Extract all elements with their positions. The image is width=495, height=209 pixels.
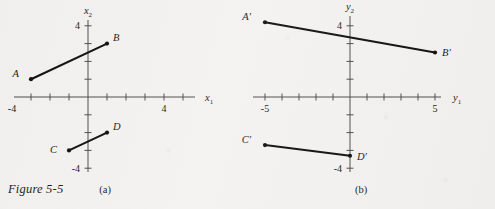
x-tick-label: 5 xyxy=(433,103,438,114)
point-label-B': B′ xyxy=(442,47,451,58)
panel-b-tag: (b) xyxy=(355,184,367,195)
y-tick-label: 4 xyxy=(75,20,80,31)
y-axis-label: x2 xyxy=(83,5,93,19)
x-axis-label: x1 xyxy=(204,92,214,106)
panel-a-tag: (a) xyxy=(99,184,111,195)
point-marker-C xyxy=(67,148,71,152)
point-marker-A' xyxy=(263,20,267,24)
point-label-C: C xyxy=(50,144,58,155)
figure-caption-row: Figure 5-5 (a) xyxy=(8,182,111,197)
x-tick-label: 4 xyxy=(162,103,167,114)
x-axis-label: y1 xyxy=(452,92,462,106)
point-label-A': A′ xyxy=(241,11,251,22)
point-marker-A xyxy=(29,77,33,81)
point-marker-B xyxy=(105,42,109,46)
figure-caption: Figure 5-5 xyxy=(8,182,63,197)
point-label-D: D xyxy=(112,121,121,132)
point-marker-D' xyxy=(348,154,352,158)
figure-5-5: -444-4x1x2ABCD -554-4y1y2A′B′C′D′ Figure… xyxy=(0,0,495,209)
x-tick-label: -5 xyxy=(261,103,269,114)
y-tick-label: -4 xyxy=(72,163,80,174)
point-label-C': C′ xyxy=(242,134,252,145)
point-label-D': D′ xyxy=(356,151,368,162)
point-label-B: B xyxy=(113,32,120,43)
segment-C'D' xyxy=(265,145,350,156)
y-axis-label: y2 xyxy=(345,1,355,15)
point-marker-D xyxy=(105,131,109,135)
plot-panel-b: -554-4y1y2A′B′C′D′ xyxy=(245,0,495,180)
point-marker-B' xyxy=(433,50,437,54)
plot-panel-a: -444-4x1x2ABCD xyxy=(0,0,245,180)
point-label-A: A xyxy=(12,68,20,79)
x-tick-label: -4 xyxy=(8,103,16,114)
y-tick-label: 4 xyxy=(337,20,342,31)
segment-AB xyxy=(31,44,107,80)
y-tick-label: -4 xyxy=(334,163,342,174)
point-marker-C' xyxy=(263,143,267,147)
